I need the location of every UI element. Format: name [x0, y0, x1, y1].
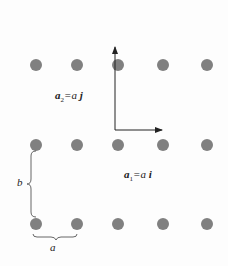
lattice-point [30, 59, 42, 71]
lattice-point [71, 218, 83, 230]
lattice-svg [0, 0, 228, 266]
lattice-points [30, 59, 213, 230]
lattice-point [201, 59, 213, 71]
lattice-point [112, 218, 124, 230]
brace-a [33, 234, 77, 240]
lattice-point [157, 139, 169, 151]
label-a: a [50, 241, 56, 253]
lattice-point [71, 139, 83, 151]
lattice-point [201, 139, 213, 151]
lattice-diagram: a2=a j a1=a i b a [0, 0, 228, 266]
lattice-point [157, 218, 169, 230]
lattice-point [157, 59, 169, 71]
lattice-point [71, 59, 83, 71]
lattice-point [112, 59, 124, 71]
lattice-point [112, 139, 124, 151]
lattice-point [30, 139, 42, 151]
brace-b [27, 151, 36, 217]
lattice-point [30, 218, 42, 230]
label-b: b [17, 176, 23, 188]
lattice-point [201, 218, 213, 230]
label-a1: a1=a i [124, 168, 152, 183]
label-a2: a2=a j [55, 89, 83, 104]
